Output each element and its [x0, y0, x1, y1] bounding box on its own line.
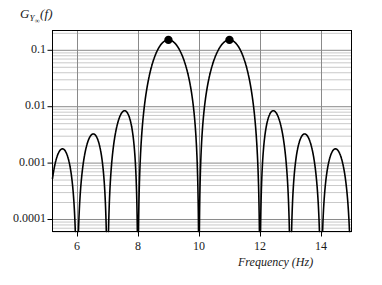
axis-tick-marks — [48, 50, 322, 236]
x-tick-label: 8 — [123, 239, 153, 254]
spectral-density-chart: GY∞(f) Frequency (Hz) 0.10.010.0010.0001… — [0, 0, 382, 285]
x-tick-label: 14 — [306, 239, 336, 254]
peak-marker — [225, 36, 233, 44]
x-tick-label: 12 — [245, 239, 275, 254]
y-tick-label: 0.001 — [0, 155, 46, 170]
x-tick-label: 10 — [184, 239, 214, 254]
y-tick-label: 0.01 — [0, 98, 46, 113]
y-tick-label: 0.0001 — [0, 211, 46, 226]
x-tick-label: 6 — [62, 239, 92, 254]
peak-marker — [164, 36, 172, 44]
y-tick-label: 0.1 — [0, 42, 46, 57]
